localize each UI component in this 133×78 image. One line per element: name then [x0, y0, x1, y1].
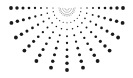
- burst-dot: [104, 7, 107, 10]
- burst-dot: [60, 12, 61, 13]
- burst-dot: [80, 11, 81, 12]
- burst-dot: [37, 35, 40, 38]
- burst-dot: [109, 6, 112, 9]
- burst-dot: [15, 6, 18, 9]
- burst-dot: [79, 15, 80, 16]
- burst-dot: [92, 7, 94, 9]
- burst-dot: [65, 15, 66, 16]
- burst-dot: [10, 21, 14, 25]
- burst-dot: [103, 44, 106, 47]
- burst-dot: [54, 15, 55, 16]
- burst-dot: [28, 17, 31, 20]
- burst-dot: [23, 49, 27, 53]
- burst-dot: [89, 48, 92, 51]
- burst-dot: [65, 55, 68, 58]
- burst-dot: [51, 22, 53, 24]
- burst-dot: [77, 18, 78, 19]
- center-arc: [65, 8, 69, 10]
- burst-dot: [73, 34, 75, 36]
- burst-dot: [94, 35, 97, 38]
- burst-dot: [52, 31, 54, 33]
- burst-dot: [81, 66, 85, 70]
- burst-dot: [66, 22, 67, 23]
- burst-dot: [49, 37, 51, 39]
- burst-dot: [9, 6, 13, 10]
- burst-dot: [42, 48, 45, 51]
- burst-dot: [81, 22, 83, 24]
- burst-dot: [61, 13, 62, 14]
- burst-dot: [57, 41, 59, 43]
- burst-dot: [34, 7, 36, 9]
- burst-dot: [46, 7, 48, 9]
- burst-dot: [111, 33, 114, 36]
- burst-dot: [84, 18, 86, 20]
- burst-dot: [53, 11, 54, 12]
- burst-dot: [109, 18, 112, 21]
- burst-dot: [74, 20, 75, 21]
- burst-dot: [59, 34, 61, 36]
- burst-dot: [48, 18, 50, 20]
- burst-dot: [59, 20, 60, 21]
- burst-dot: [61, 28, 63, 30]
- burst-dot: [116, 36, 120, 40]
- burst-dot: [80, 7, 81, 8]
- burst-dot: [56, 18, 57, 19]
- burst-dot: [75, 41, 77, 43]
- burst-dot: [37, 24, 39, 26]
- sunburst-dot-graphic: [0, 0, 133, 78]
- burst-dot: [95, 24, 97, 26]
- burst-dot: [98, 15, 100, 17]
- burst-dot: [96, 59, 100, 63]
- burst-dot: [40, 7, 42, 9]
- burst-dot: [66, 29, 68, 31]
- burst-dot: [34, 15, 36, 17]
- burst-dot: [56, 26, 58, 28]
- burst-dot: [90, 31, 92, 33]
- burst-dot: [74, 12, 75, 13]
- burst-dot: [59, 10, 60, 11]
- burst-dot: [103, 17, 106, 20]
- burst-dot: [100, 27, 103, 30]
- burst-dot: [14, 36, 18, 40]
- burst-dot: [32, 40, 35, 43]
- burst-dot: [63, 15, 64, 16]
- burst-dot: [72, 28, 74, 30]
- burst-dot: [74, 10, 75, 11]
- burst-dot: [25, 30, 28, 33]
- burst-dot: [99, 40, 102, 43]
- burst-dot: [47, 13, 49, 15]
- burst-dot: [21, 6, 24, 9]
- burst-dot: [77, 26, 79, 28]
- burst-dot: [90, 21, 92, 23]
- burst-dot: [75, 8, 76, 9]
- burst-dot: [76, 47, 79, 50]
- burst-dot: [22, 18, 25, 21]
- burst-dot: [86, 27, 88, 29]
- burst-dot: [69, 15, 70, 16]
- burst-dot: [65, 68, 69, 72]
- burst-dot: [70, 22, 71, 23]
- burst-dot: [43, 21, 45, 23]
- burst-dot: [92, 14, 94, 16]
- burst-dot: [38, 54, 41, 57]
- burst-dot: [121, 6, 125, 10]
- burst-dot: [31, 27, 34, 30]
- burst-dot: [98, 7, 100, 9]
- burst-dot: [106, 30, 109, 33]
- burst-dot: [65, 62, 68, 65]
- burst-dot: [59, 8, 60, 9]
- burst-dot: [16, 20, 19, 23]
- burst-dot: [66, 42, 68, 44]
- burst-dot: [80, 31, 82, 33]
- burst-dot: [86, 7, 88, 9]
- burst-dot: [20, 33, 23, 36]
- burst-dot: [28, 7, 31, 10]
- burst-dot: [115, 20, 118, 23]
- burst-dot: [52, 7, 53, 8]
- burst-dot: [115, 6, 118, 9]
- burst-dot: [42, 31, 44, 33]
- burst-dot: [78, 53, 81, 56]
- burst-dot: [93, 54, 96, 57]
- burst-dot: [53, 53, 56, 56]
- burst-dot: [72, 13, 73, 14]
